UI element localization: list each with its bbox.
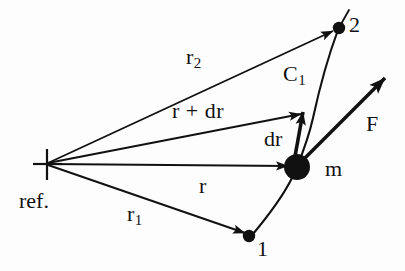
label-vector-r: r xyxy=(199,175,206,197)
mass-point-marker xyxy=(284,154,310,180)
label-mass: m xyxy=(325,158,342,180)
vector-r-arrow xyxy=(48,164,288,166)
label-vector-r2: r2 xyxy=(186,46,201,71)
point-1-marker xyxy=(243,230,255,242)
vector-diagram-svg xyxy=(0,0,405,271)
label-point-2: 2 xyxy=(349,14,360,36)
diagram-canvas: ref. r1 r r + dr r2 C1 dr m F 1 2 xyxy=(0,0,405,271)
label-curve-c1: C1 xyxy=(283,63,306,88)
label-point-1: 1 xyxy=(257,238,268,260)
label-vector-r2-subscript: 2 xyxy=(193,55,201,71)
label-curve-c1-subscript: 1 xyxy=(298,72,306,88)
label-vector-r-plus-dr: r + dr xyxy=(172,100,224,122)
point-2-marker xyxy=(333,22,345,34)
vector-r1-arrow xyxy=(48,165,245,233)
label-reference-point: ref. xyxy=(19,190,49,212)
label-curve-c1-base: C xyxy=(283,61,298,86)
label-vector-r1-subscript: 1 xyxy=(134,212,142,228)
label-vector-dr: dr xyxy=(264,128,282,150)
label-vector-r1: r1 xyxy=(127,203,142,228)
label-force-F: F xyxy=(366,113,378,135)
